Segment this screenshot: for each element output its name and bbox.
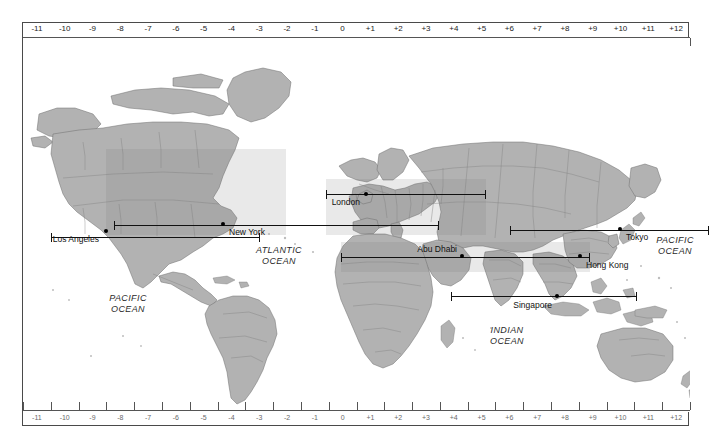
city-dot-tokyo[interactable] xyxy=(618,227,622,231)
timezone-label-bottom-plus3: +3 xyxy=(422,414,430,421)
timezone-label-top-plus3: +3 xyxy=(421,24,430,33)
timezone-label-bottom-minus4: -4 xyxy=(228,414,234,421)
timezone-label-top-plus8: +8 xyxy=(560,24,569,33)
scale-tick-bottom xyxy=(690,402,691,410)
ocean-label-line1: INDIAN xyxy=(490,325,524,336)
scale-tick-bottom xyxy=(384,402,385,410)
timezone-label-top-plus11: +11 xyxy=(642,24,655,33)
scale-tick-bottom xyxy=(301,402,302,410)
scale-tick-bottom xyxy=(440,402,441,410)
timezone-label-top-minus8: -8 xyxy=(117,24,124,33)
ocean-label-atlantic-1: ATLANTICOCEAN xyxy=(256,245,302,267)
ocean-label-line2: OCEAN xyxy=(256,256,302,267)
scale-tick-top xyxy=(690,38,691,46)
scale-tick-bottom xyxy=(218,402,219,410)
timezone-label-bottom-minus8: -8 xyxy=(117,414,123,421)
timezone-label-top-minus6: -6 xyxy=(172,24,179,33)
city-label-tokyo: Tokyo xyxy=(626,232,648,242)
timezone-label-top-0: 0 xyxy=(340,24,344,33)
scale-tick-bottom xyxy=(523,402,524,410)
timezone-label-top-plus12: +12 xyxy=(669,24,683,33)
ocean-label-line1: ATLANTIC xyxy=(256,245,302,256)
ocean-label-line2: OCEAN xyxy=(490,336,524,347)
city-dot-london[interactable] xyxy=(364,192,368,196)
ocean-label-line2: OCEAN xyxy=(109,304,147,315)
scale-tick-bottom xyxy=(329,402,330,410)
timezone-label-top-plus9: +9 xyxy=(588,24,597,33)
ocean-label-line1: PACIFIC xyxy=(109,293,147,304)
timezone-label-bottom-minus1: -1 xyxy=(312,414,318,421)
scale-tick-bottom xyxy=(79,402,80,410)
city-label-los-angeles: Los Angeles xyxy=(53,234,99,244)
city-dot-new-york[interactable] xyxy=(221,222,225,226)
timezone-label-bottom-minus5: -5 xyxy=(201,414,207,421)
city-label-abu-dhabi: Abu Dhabi xyxy=(417,244,457,254)
scale-tick-bottom xyxy=(495,402,496,410)
timezone-label-top-plus6: +6 xyxy=(505,24,514,33)
scale-tick-bottom xyxy=(190,402,191,410)
timezone-label-top-minus7: -7 xyxy=(145,24,152,33)
timezone-label-top-plus5: +5 xyxy=(477,24,486,33)
world-timezone-map: -11-10-9-8-7-6-5-4-3-2-10+1+2+3+4+5+6+7+… xyxy=(0,0,711,444)
bar-cap-left xyxy=(341,253,342,262)
timezone-label-top-minus10: -10 xyxy=(59,24,71,33)
scale-tick-bottom xyxy=(106,402,107,410)
city-dot-hong-kong[interactable] xyxy=(578,254,582,258)
scale-tick-bottom xyxy=(551,402,552,410)
timezone-label-bottom-0: 0 xyxy=(341,414,345,421)
timezone-label-bottom-plus5: +5 xyxy=(478,414,486,421)
timezone-label-bottom-plus1: +1 xyxy=(366,414,374,421)
timezone-label-top-minus1: -1 xyxy=(311,24,318,33)
timezone-scale-bottom: -11-10-9-8-7-6-5-4-3-2-10+1+2+3+4+5+6+7+… xyxy=(23,410,690,425)
scale-tick-bottom xyxy=(23,402,24,410)
timezone-label-top-minus9: -9 xyxy=(89,24,96,33)
timezone-label-bottom-plus8: +8 xyxy=(561,414,569,421)
scale-tick-bottom xyxy=(662,402,663,410)
timezone-label-top-plus4: +4 xyxy=(449,24,458,33)
scale-tick-bottom xyxy=(357,402,358,410)
map-frame: -11-10-9-8-7-6-5-4-3-2-10+1+2+3+4+5+6+7+… xyxy=(22,22,689,426)
london-bar xyxy=(326,194,486,195)
timezone-label-bottom-minus11: -11 xyxy=(32,414,42,421)
bar-cap-right xyxy=(485,190,486,199)
singapore-bar xyxy=(451,296,637,297)
timezone-label-top-plus7: +7 xyxy=(533,24,542,33)
bar-cap-left xyxy=(326,190,327,199)
timezone-scale-top: -11-10-9-8-7-6-5-4-3-2-10+1+2+3+4+5+6+7+… xyxy=(23,23,690,38)
scale-tick-bottom xyxy=(134,402,135,410)
timezone-label-top-minus2: -2 xyxy=(283,24,290,33)
newyork-bar xyxy=(114,225,439,226)
scale-tick-bottom xyxy=(51,402,52,410)
timezone-label-bottom-plus9: +9 xyxy=(589,414,597,421)
ocean-label-pacific-0: PACIFICOCEAN xyxy=(109,293,147,315)
timezone-label-bottom-plus12: +12 xyxy=(670,414,682,421)
city-label-london: London xyxy=(332,197,360,207)
timezone-label-top-plus10: +10 xyxy=(614,24,628,33)
timezone-label-bottom-minus6: -6 xyxy=(173,414,179,421)
bar-cap-right xyxy=(438,221,439,230)
timezone-label-top-minus5: -5 xyxy=(200,24,207,33)
scale-tick-bottom xyxy=(607,402,608,410)
ocean-label-line1: PACIFIC xyxy=(656,235,694,246)
scale-tick-bottom xyxy=(273,402,274,410)
city-dot-abu-dhabi[interactable] xyxy=(460,254,464,258)
timezone-label-bottom-plus11: +11 xyxy=(643,414,654,421)
timezone-label-bottom-minus9: -9 xyxy=(89,414,95,421)
bar-cap-left xyxy=(510,226,511,235)
bar-cap-right xyxy=(636,292,637,301)
city-label-singapore: Singapore xyxy=(513,300,552,310)
city-dot-singapore[interactable] xyxy=(555,294,559,298)
scale-tick-bottom xyxy=(468,402,469,410)
timezone-label-bottom-plus2: +2 xyxy=(394,414,402,421)
timezone-label-bottom-minus2: -2 xyxy=(284,414,290,421)
timezone-label-top-plus2: +2 xyxy=(394,24,403,33)
ocean-label-pacific-3: PACIFICOCEAN xyxy=(656,235,694,257)
timezone-label-bottom-plus6: +6 xyxy=(505,414,513,421)
bar-cap-left xyxy=(451,292,452,301)
bar-cap-right xyxy=(708,226,709,235)
city-dot-los-angeles[interactable] xyxy=(104,229,108,233)
timezone-label-bottom-plus7: +7 xyxy=(533,414,541,421)
city-label-new-york: New York xyxy=(229,227,265,237)
scale-tick-bottom xyxy=(245,402,246,410)
ocean-label-indian-2: INDIANOCEAN xyxy=(490,325,524,347)
